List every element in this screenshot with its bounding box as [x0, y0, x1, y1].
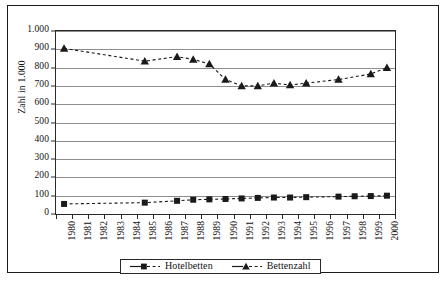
chart-legend: HotelbettenBettenzahl — [120, 259, 321, 274]
x-tick-mark — [201, 215, 202, 219]
x-tick-label: 1985 — [149, 221, 159, 240]
x-tick-label: 1993 — [278, 221, 288, 240]
x-tick-label: 1996 — [326, 221, 336, 240]
x-tick-label: 1999 — [375, 221, 385, 240]
triangle-marker-icon — [302, 79, 310, 87]
x-tick-label: 1987 — [181, 221, 191, 240]
x-tick-mark — [330, 215, 331, 219]
x-tick-label: 1990 — [230, 221, 240, 240]
legend-label: Hotelbetten — [165, 261, 213, 271]
y-tick-label: 900 — [34, 44, 49, 54]
triangle-marker-icon — [270, 79, 278, 87]
x-tick-label: 1998 — [359, 221, 369, 240]
legend-entry[interactable]: Hotelbetten — [130, 261, 213, 271]
triangle-marker-icon — [286, 81, 294, 89]
x-tick-mark — [347, 215, 348, 219]
x-tick-label: 1983 — [117, 221, 127, 240]
x-tick-mark — [363, 215, 364, 219]
y-axis-title: Zahl in 1.000 — [17, 21, 27, 153]
y-tick-label: 300 — [34, 153, 49, 163]
x-tick-label: 1984 — [133, 221, 143, 240]
y-tick-label: 800 — [34, 62, 49, 72]
x-tick-mark — [314, 215, 315, 219]
x-tick-label: 1989 — [213, 221, 223, 240]
y-tick-label: 700 — [34, 80, 49, 90]
x-tick-label: 1986 — [165, 221, 175, 240]
y-tick-label: 100 — [34, 190, 49, 200]
y-tick-label: 1.000 — [27, 25, 49, 35]
x-tick-mark — [395, 215, 396, 219]
x-tick-label: 1988 — [197, 221, 207, 240]
triangle-marker-icon — [237, 82, 245, 90]
triangle-marker-icon — [221, 75, 229, 83]
x-tick-mark — [185, 215, 186, 219]
triangle-marker-icon — [254, 82, 262, 90]
series-bettenzahl — [56, 31, 395, 214]
y-axis: Zahl in 1.000 01002003004005006007008009… — [8, 30, 55, 215]
x-tick-mark — [137, 215, 138, 219]
series-layer — [56, 31, 395, 214]
x-tick-mark — [104, 215, 105, 219]
y-tick-label: 400 — [34, 135, 49, 145]
x-tick-mark — [56, 215, 57, 219]
triangle-marker-icon — [173, 52, 181, 60]
x-tick-label: 1997 — [343, 221, 353, 240]
x-tick-label: 2000 — [391, 221, 401, 240]
x-tick-mark — [121, 215, 122, 219]
x-tick-mark — [217, 215, 218, 219]
y-tick-label: 200 — [34, 172, 49, 182]
x-tick-label: 1980 — [68, 221, 78, 240]
x-tick-mark — [266, 215, 267, 219]
triangle-marker-icon — [383, 63, 391, 71]
triangle-marker-icon — [367, 70, 375, 78]
y-tick-label: 600 — [34, 98, 49, 108]
x-tick-mark — [282, 215, 283, 219]
x-tick-mark — [169, 215, 170, 219]
plot-area — [55, 30, 396, 215]
x-tick-label: 1994 — [294, 221, 304, 240]
y-tick-label: 500 — [34, 117, 49, 127]
x-tick-mark — [250, 215, 251, 219]
x-tick-mark — [72, 215, 73, 219]
x-tick-mark — [379, 215, 380, 219]
x-tick-mark — [88, 215, 89, 219]
x-tick-label: 1982 — [100, 221, 110, 240]
x-tick-mark — [153, 215, 154, 219]
x-tick-label: 1995 — [310, 221, 320, 240]
x-axis: 1980198119821983198419851986198719881989… — [55, 215, 396, 259]
triangle-marker-icon — [60, 44, 68, 52]
x-tick-label: 1991 — [246, 221, 256, 240]
legend-label: Bettenzahl — [267, 261, 311, 271]
x-tick-label: 1981 — [84, 221, 94, 240]
triangle-marker-icon — [232, 262, 262, 271]
chart-figure: Zahl in 1.000 01002003004005006007008009… — [7, 5, 439, 273]
triangle-marker-icon — [205, 60, 213, 68]
legend-entry[interactable]: Bettenzahl — [232, 261, 311, 271]
x-tick-mark — [234, 215, 235, 219]
x-tick-mark — [298, 215, 299, 219]
x-tick-label: 1992 — [262, 221, 272, 240]
triangle-marker-icon — [189, 55, 197, 63]
square-marker-icon — [130, 262, 160, 271]
y-tick-label: 0 — [44, 208, 49, 218]
